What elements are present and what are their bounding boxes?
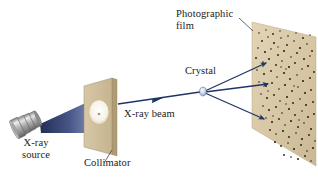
xray-beam-ray bbox=[118, 92, 200, 104]
label-photographic-film: Photographic film bbox=[176, 8, 233, 31]
label-xray-beam: X-ray beam bbox=[124, 108, 175, 120]
label-xray-source: X-ray source bbox=[13, 137, 59, 160]
xray-source-tube bbox=[8, 108, 44, 139]
label-crystal: Crystal bbox=[185, 65, 216, 77]
xray-diffraction-diagram: Photographic film Crystal X-ray beam X-r… bbox=[0, 0, 318, 178]
collimator-plate bbox=[84, 78, 117, 163]
label-collimator: Collimator bbox=[84, 157, 131, 169]
photographic-film bbox=[239, 18, 316, 166]
crystal-sample bbox=[200, 87, 207, 96]
